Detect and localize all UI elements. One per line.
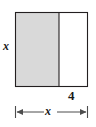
height-label: x xyxy=(3,40,9,52)
width-dimension-line xyxy=(16,106,88,118)
shaded-region xyxy=(16,13,60,87)
geometry-figure: x 4 x xyxy=(0,0,96,127)
unshaded-region xyxy=(59,13,88,87)
dimension-arrowhead-left xyxy=(17,109,24,115)
total-width-label: x xyxy=(45,105,51,117)
unshaded-width-label: 4 xyxy=(68,89,75,102)
dimension-arrowhead-right xyxy=(80,109,87,115)
